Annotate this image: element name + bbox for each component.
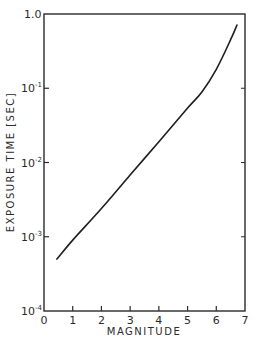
x-tick-label: 7 [242, 314, 249, 327]
x-tick-label: 2 [98, 314, 105, 327]
chart: 01234567 1.010-110-210-310-4 MAGNITUDE E… [0, 0, 256, 342]
y-tick-label: 10-2 [21, 156, 42, 170]
y-tick-label: 10-1 [21, 81, 42, 95]
exposure-curve [57, 25, 237, 259]
x-axis-label: MAGNITUDE [107, 326, 181, 337]
x-axis-ticks: 01234567 [41, 306, 249, 327]
plot-frame [44, 14, 245, 311]
y-tick-label: 10-3 [21, 230, 42, 244]
y-axis-label: EXPOSURE TIME [SEC] [5, 92, 16, 232]
x-tick-label: 0 [41, 314, 48, 327]
x-tick-label: 6 [213, 314, 220, 327]
x-tick-label: 5 [184, 314, 191, 327]
y-axis-ticks: 1.010-110-210-310-4 [21, 8, 245, 318]
y-tick-label: 10-4 [21, 304, 43, 318]
x-tick-label: 1 [69, 314, 76, 327]
y-tick-label: 1.0 [24, 8, 42, 21]
